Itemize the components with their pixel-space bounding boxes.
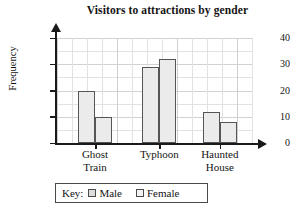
legend-label-female: Female bbox=[147, 187, 179, 199]
bar-ghost-train-female bbox=[95, 117, 112, 143]
legend-key-label: Key: bbox=[62, 187, 83, 199]
y-axis-title: Frequency bbox=[7, 34, 18, 104]
legend-label-male: Male bbox=[99, 187, 122, 199]
x-axis-label-line: Train bbox=[63, 161, 127, 174]
bar-typhoon-female bbox=[159, 59, 176, 143]
x-axis-arrow-icon bbox=[258, 139, 267, 149]
y-axis-tick-label: 40 bbox=[246, 33, 290, 43]
x-axis-label-line: Typhoon bbox=[127, 148, 191, 161]
gridline-vertical bbox=[117, 38, 118, 143]
female-swatch-icon bbox=[136, 189, 144, 197]
bar-ghost-train-male bbox=[78, 91, 95, 144]
y-axis-tick-label: 10 bbox=[246, 112, 290, 122]
x-axis-label-haunted-house: HauntedHouse bbox=[188, 148, 252, 173]
x-axis-label-line: Haunted bbox=[188, 148, 252, 161]
x-axis-label-line: Ghost bbox=[63, 148, 127, 161]
y-axis-tick-label: 30 bbox=[246, 59, 290, 69]
chart-title: Visitors to attractions by gender bbox=[55, 4, 280, 16]
plot-area bbox=[57, 38, 252, 143]
bar-haunted-house-female bbox=[220, 122, 237, 143]
x-axis-label-line: House bbox=[188, 161, 252, 174]
legend-item-female: Female bbox=[136, 187, 179, 199]
x-axis-label-ghost-train: GhostTrain bbox=[63, 148, 127, 173]
x-axis-line bbox=[55, 143, 259, 145]
gridline-vertical bbox=[177, 38, 178, 143]
legend-box: Key: Male Female bbox=[55, 183, 208, 203]
y-axis-tick bbox=[50, 64, 56, 66]
y-axis-tick bbox=[50, 38, 56, 40]
y-axis-tick bbox=[50, 90, 56, 92]
y-axis-tick-label: 20 bbox=[246, 86, 290, 96]
x-axis-label-typhoon: Typhoon bbox=[127, 148, 191, 161]
y-axis-tick bbox=[50, 116, 56, 118]
gridline-vertical bbox=[57, 38, 58, 143]
male-swatch-icon bbox=[88, 189, 96, 197]
bar-chart: Visitors to attractions by gender 010203… bbox=[0, 0, 290, 210]
gridline-vertical bbox=[192, 38, 193, 143]
y-axis-line bbox=[55, 30, 57, 145]
bar-haunted-house-male bbox=[203, 112, 220, 144]
bar-typhoon-male bbox=[142, 67, 159, 143]
legend-item-male: Male bbox=[88, 187, 122, 199]
gridline-vertical bbox=[132, 38, 133, 143]
gridline-vertical bbox=[72, 38, 73, 143]
gridline-vertical bbox=[237, 38, 238, 143]
